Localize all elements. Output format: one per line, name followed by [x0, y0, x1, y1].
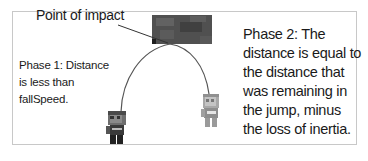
- character-left-icon: [106, 111, 126, 144]
- phase1-label: Phase 1: Distance is less than fallSpeed…: [19, 57, 119, 108]
- jump-arc: [121, 44, 209, 112]
- phase2-label: Phase 2: The distance is equal to the di…: [243, 25, 363, 139]
- point-of-impact-label: Point of impact: [36, 7, 124, 24]
- impact-block: [152, 15, 212, 44]
- character-right-icon: [201, 94, 219, 127]
